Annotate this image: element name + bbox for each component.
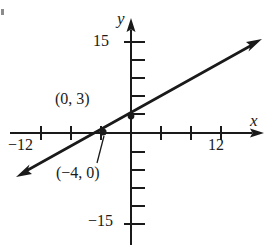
x-tick-label-neg12: −12 bbox=[8, 137, 33, 153]
point-label-x-intercept: (−4, 0) bbox=[56, 165, 100, 181]
point-x-intercept bbox=[99, 128, 106, 135]
graph-figure: y x 15 −15 −12 12 (0, 3) (−4, 0) bbox=[0, 0, 272, 249]
y-axis-arrowhead bbox=[127, 18, 136, 32]
line-arrowhead-right bbox=[246, 39, 262, 52]
point-label-y-intercept: (0, 3) bbox=[55, 91, 90, 107]
coordinate-plane bbox=[0, 0, 272, 249]
y-axis bbox=[127, 18, 136, 245]
y-tick-label-15: 15 bbox=[93, 33, 109, 49]
y-axis-label: y bbox=[117, 10, 125, 27]
line-arrowhead-left bbox=[16, 165, 32, 178]
x-tick-label-12: 12 bbox=[208, 137, 224, 153]
x-axis bbox=[10, 129, 264, 138]
y-tick-label-neg15: −15 bbox=[88, 213, 113, 229]
point-y-intercept bbox=[128, 113, 135, 120]
leader-line-x-intercept bbox=[97, 136, 104, 163]
x-axis-label: x bbox=[250, 112, 258, 129]
